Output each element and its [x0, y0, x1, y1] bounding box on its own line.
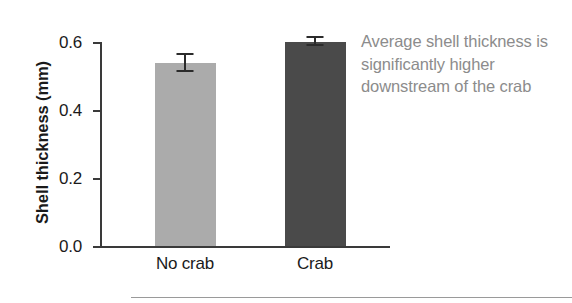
bar-rect [155, 63, 216, 246]
y-tick-label: 0.6 [59, 33, 82, 53]
chart-annotation: Average shell thickness is significantly… [361, 30, 566, 98]
bottom-divider-rule [131, 297, 572, 298]
bar-crab [285, 42, 346, 246]
plot-area: 0.60.40.20.0 No crabCrab [100, 42, 390, 248]
x-tick-label: No crab [156, 254, 214, 274]
y-tick-mark: 0.4 [93, 110, 100, 112]
y-axis-spine [100, 42, 102, 248]
y-tick-label: 0.2 [59, 169, 82, 189]
x-axis-spine [100, 246, 390, 248]
error-bar-cap-bottom [307, 44, 324, 46]
error-bar-cap-top [307, 36, 324, 38]
error-bar-cap-bottom [177, 70, 194, 72]
y-tick-label: 0.4 [59, 101, 82, 121]
y-axis-title: Shell thickness (mm) [33, 28, 52, 258]
bar-rect [285, 42, 346, 246]
error-bar-cap-top [177, 53, 194, 55]
y-tick-mark: 0.2 [93, 178, 100, 180]
y-tick-label: 0.0 [59, 237, 82, 257]
bar-no-crab [155, 63, 216, 246]
x-tick-label: Crab [297, 254, 333, 274]
y-tick-mark: 0.6 [93, 42, 100, 44]
bar-chart-figure: Shell thickness (mm) 0.60.40.20.0 No cra… [0, 0, 572, 303]
y-tick-mark: 0.0 [93, 246, 100, 248]
